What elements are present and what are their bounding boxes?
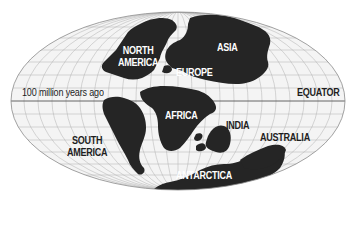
label-europe: EUROPE bbox=[176, 66, 213, 78]
label-africa: AFRICA bbox=[165, 109, 198, 121]
label-south-america-line2: AMERICA bbox=[67, 146, 107, 158]
label-south-america: SOUTH AMERICA bbox=[67, 134, 107, 158]
label-north-america: NORTH AMERICA bbox=[118, 44, 158, 68]
label-asia: ASIA bbox=[217, 41, 238, 53]
label-north-america-line2: AMERICA bbox=[118, 56, 158, 68]
label-australia: AUSTRALIA bbox=[260, 131, 310, 143]
label-north-america-line1: NORTH bbox=[118, 44, 158, 56]
label-equator: EQUATOR bbox=[297, 86, 340, 98]
label-india: INDIA bbox=[226, 119, 249, 131]
label-antarctica: ANTARCTICA bbox=[176, 169, 232, 181]
label-south-america-line1: SOUTH bbox=[67, 134, 107, 146]
map-caption: 100 million years ago bbox=[22, 86, 104, 98]
